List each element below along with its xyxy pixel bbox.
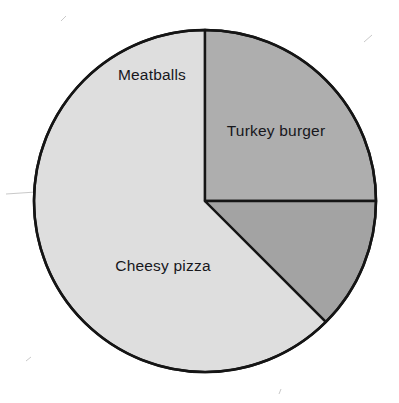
pencil-scribble-top-right bbox=[364, 35, 372, 42]
pencil-scribble-top-left bbox=[61, 16, 66, 21]
slice-label-meatballs: Meatballs bbox=[118, 66, 186, 83]
pie-chart: Meatballs Turkey burger Cheesy pizza bbox=[0, 0, 399, 403]
slice-label-cheesy-pizza: Cheesy pizza bbox=[115, 257, 211, 274]
pencil-scribble-bottom-left bbox=[26, 357, 31, 361]
pie-slice-turkey-burger[interactable] bbox=[205, 30, 376, 201]
slice-label-turkey-burger: Turkey burger bbox=[227, 122, 326, 139]
pie-chart-page: Meatballs Turkey burger Cheesy pizza bbox=[0, 0, 399, 403]
pencil-line-left bbox=[6, 192, 36, 194]
pencil-scribble-bottom-right bbox=[279, 389, 281, 394]
